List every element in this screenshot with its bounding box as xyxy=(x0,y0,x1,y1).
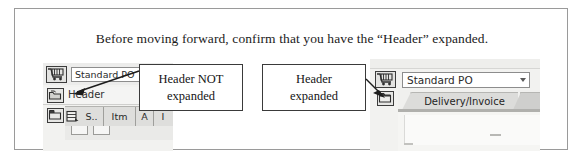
header-label-left: Header xyxy=(68,89,104,100)
sap-screenshot-expanded: Standard PO Delivery/Invoice xyxy=(370,59,540,151)
grid-footer-cell xyxy=(93,126,110,135)
grid-select-all-icon[interactable] xyxy=(66,110,79,123)
grid-footer-cell xyxy=(71,126,88,135)
tab-next[interactable] xyxy=(520,92,540,110)
left-grid-footer xyxy=(65,126,173,140)
content-placeholder-mark xyxy=(490,134,501,136)
callout-header-expanded: Header expanded xyxy=(262,64,366,111)
callout-header-not-expanded: Header NOT expanded xyxy=(139,64,243,111)
callout-line-1: Header NOT xyxy=(159,71,224,88)
chevron-down-icon[interactable] xyxy=(520,78,526,82)
grid-column-header[interactable]: Itm xyxy=(104,107,136,127)
tab-content-area xyxy=(398,112,540,151)
collapse-header-icon[interactable] xyxy=(377,91,394,106)
expand-item-icon[interactable] xyxy=(47,108,64,123)
callout-line-2: expanded xyxy=(167,88,215,105)
caption-text: Before moving forward, confirm that you … xyxy=(15,31,569,47)
instructional-figure: Before moving forward, confirm that you … xyxy=(14,8,568,150)
tab-delivery-invoice[interactable]: Delivery/Invoice xyxy=(410,92,518,110)
expand-header-icon[interactable] xyxy=(47,88,64,103)
callout-line-1: Header xyxy=(296,71,332,88)
right-toolbar-strip xyxy=(370,59,540,69)
shopping-cart-icon xyxy=(375,71,396,88)
shopping-cart-icon xyxy=(46,66,67,83)
tab-strip: Delivery/Invoice xyxy=(398,90,540,110)
callout-line-2: expanded xyxy=(290,88,338,105)
content-placeholder-mark xyxy=(404,143,413,145)
tab-content-inner xyxy=(404,115,540,145)
grid-column-header[interactable]: S.. xyxy=(80,107,104,127)
po-type-field-right[interactable]: Standard PO xyxy=(402,72,530,88)
